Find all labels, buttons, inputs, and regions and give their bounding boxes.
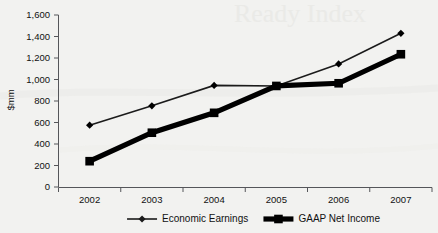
legend-item-gaap-net-income[interactable]: GAAP Net Income xyxy=(263,213,380,224)
data-point-marker xyxy=(148,128,157,137)
data-point-marker xyxy=(335,60,342,67)
legend-label: Economic Earnings xyxy=(162,213,248,224)
data-point-marker xyxy=(86,122,93,129)
y-axis-title-text: $mm xyxy=(5,89,16,110)
series-layer xyxy=(85,30,405,166)
data-point-marker xyxy=(148,102,155,109)
y-axis-ticks: 02004006008001,0001,2001,4001,600 xyxy=(26,9,58,192)
data-point-marker xyxy=(272,82,281,91)
data-point-marker xyxy=(211,82,218,89)
data-point-marker xyxy=(334,79,343,88)
y-tick-label: 1,400 xyxy=(26,31,50,42)
y-tick-label: 0 xyxy=(45,181,50,192)
series-gaap-net-income xyxy=(85,50,405,166)
legend-marker-swatch xyxy=(274,215,283,224)
data-point-marker xyxy=(397,50,406,59)
x-tick-label: 2006 xyxy=(328,194,349,205)
y-tick-label: 1,600 xyxy=(26,9,50,20)
series-economic-earnings xyxy=(86,30,404,129)
y-tick-label: 1,200 xyxy=(26,52,50,63)
x-tick-label: 2003 xyxy=(141,194,162,205)
y-tick-label: 400 xyxy=(34,138,50,149)
chart-legend: Economic EarningsGAAP Net Income xyxy=(127,213,380,224)
x-tick-label: 2005 xyxy=(266,194,287,205)
data-point-marker xyxy=(210,109,219,118)
data-point-marker xyxy=(85,157,94,166)
y-tick-label: 200 xyxy=(34,160,50,171)
series-line xyxy=(90,54,401,161)
y-tick-label: 600 xyxy=(34,117,50,128)
x-axis-labels: 200220032004200520062007 xyxy=(79,194,411,205)
y-axis-title: $mm xyxy=(5,89,16,110)
line-chart-plot: $mm 02004006008001,0001,2001,4001,600 20… xyxy=(0,0,438,233)
x-tick-label: 2007 xyxy=(390,194,411,205)
y-tick-label: 1,000 xyxy=(26,74,50,85)
data-point-marker xyxy=(397,30,404,37)
chart-container: Ready Index $mm 02004006008001,0001,2001… xyxy=(0,0,438,233)
legend-label: GAAP Net Income xyxy=(298,213,380,224)
x-tick-label: 2004 xyxy=(204,194,225,205)
series-line xyxy=(90,33,401,125)
x-axis-ticks xyxy=(59,188,433,193)
x-tick-label: 2002 xyxy=(79,194,100,205)
y-tick-label: 800 xyxy=(34,95,50,106)
legend-item-economic-earnings[interactable]: Economic Earnings xyxy=(127,213,248,224)
legend-marker-swatch xyxy=(138,215,145,222)
